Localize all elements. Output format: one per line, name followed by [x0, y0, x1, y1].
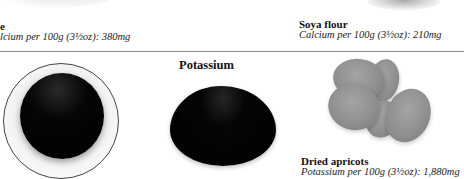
oval-dark-food-image: [170, 86, 276, 166]
soya-flour-photo: [368, 0, 440, 10]
top-left-food-info: lcium per 100g (3½oz): 380mg: [0, 31, 130, 43]
section-title-potassium: Potassium: [179, 58, 234, 73]
top-left-food-photo: [0, 0, 110, 8]
plate-dark-food: [20, 73, 104, 159]
dried-apricots-info: Potassium per 100g (3½oz): 1,880mg: [301, 166, 460, 178]
soya-flour-info: Calcium per 100g (3½oz): 210mg: [299, 29, 442, 41]
section-divider: [0, 51, 464, 52]
